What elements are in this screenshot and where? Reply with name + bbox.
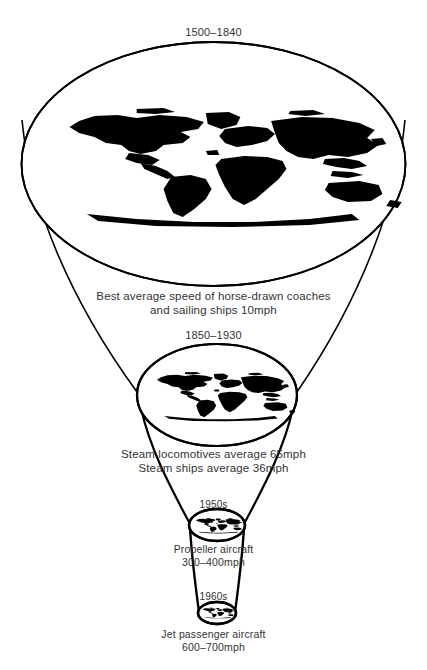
note-propeller-aircraft: Propeller aircraft 300–400mph <box>0 543 427 569</box>
era-label-1850-1930: 1850–1930 <box>0 329 427 342</box>
note-horse-drawn-and-sailing: Best average speed of horse-drawn coache… <box>0 289 427 317</box>
world-globe-tiny <box>198 602 236 624</box>
world-globe-small <box>189 509 245 541</box>
note-jet-passenger-aircraft: Jet passenger aircraft 600–700mph <box>0 628 427 654</box>
world-globe-medium <box>137 344 297 446</box>
era-label-1960s: 1960s <box>0 591 427 603</box>
world-globe-large <box>22 42 406 286</box>
note-steam-locomotives-and-ships: Steam locomotives average 65mph Steam sh… <box>0 447 427 475</box>
era-label-1500-1840: 1500–1840 <box>0 26 427 39</box>
era-label-1950s: 1950s <box>0 499 427 511</box>
